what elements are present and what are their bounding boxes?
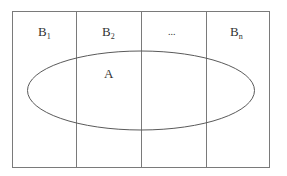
event-label-a: A [104, 66, 114, 81]
partition-label-ellipsis: ... [168, 26, 176, 37]
partition-label-bn: Bn [230, 24, 243, 41]
partition-label-b1: B1 [38, 24, 51, 41]
partition-diagram: B1 B2 ... Bn A [0, 0, 287, 176]
partition-label-b2: B2 [102, 24, 115, 41]
